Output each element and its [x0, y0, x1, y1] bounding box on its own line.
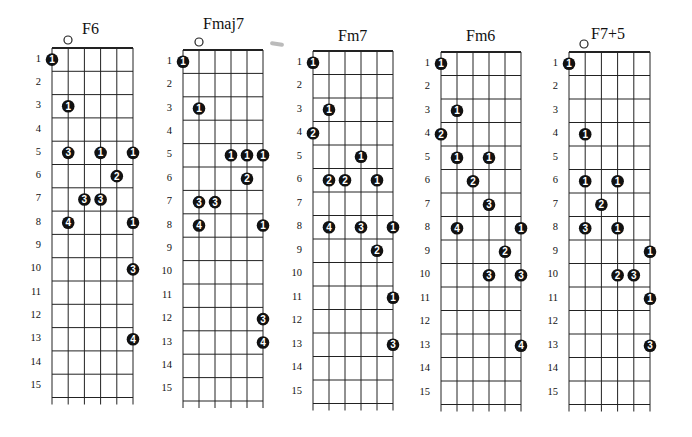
svg-text:1: 1 — [647, 246, 653, 257]
finger-dot: 3 — [628, 269, 641, 282]
fret-number: 2 — [538, 80, 558, 91]
fret-number: 1 — [538, 57, 558, 68]
svg-text:3: 3 — [582, 223, 588, 234]
svg-text:3: 3 — [631, 270, 637, 281]
svg-text:1: 1 — [582, 176, 588, 187]
fret-number: 3 — [538, 104, 558, 115]
finger-dot: 1 — [644, 292, 657, 305]
finger-dot: 1 — [611, 175, 624, 188]
fret-number: 10 — [538, 268, 558, 279]
svg-text:2: 2 — [599, 199, 605, 210]
svg-text:1: 1 — [615, 176, 621, 187]
fret-number: 9 — [538, 245, 558, 256]
fret-number: 15 — [538, 386, 558, 397]
fret-number: 7 — [538, 198, 558, 209]
finger-dot: 3 — [579, 222, 592, 235]
open-string-marker-icon — [580, 40, 588, 48]
fret-number: 6 — [538, 174, 558, 185]
svg-text:1: 1 — [647, 293, 653, 304]
fret-number: 11 — [538, 292, 558, 303]
fret-number: 12 — [538, 315, 558, 326]
fret-number: 14 — [538, 362, 558, 373]
finger-dot: 1 — [563, 57, 576, 70]
fret-number: 5 — [538, 151, 558, 162]
finger-dot: 1 — [611, 222, 624, 235]
svg-text:1: 1 — [566, 58, 572, 69]
finger-dot: 2 — [595, 198, 608, 211]
finger-dot: 1 — [579, 128, 592, 141]
finger-dot: 3 — [644, 339, 657, 352]
fretboard-grid: 111123112313 — [0, 0, 692, 437]
svg-text:1: 1 — [582, 129, 588, 140]
fret-number: 13 — [538, 339, 558, 350]
finger-dot: 2 — [611, 269, 624, 282]
finger-dot: 1 — [579, 175, 592, 188]
svg-text:3: 3 — [647, 340, 653, 351]
fret-number: 8 — [538, 221, 558, 232]
svg-text:2: 2 — [615, 270, 621, 281]
fret-number: 4 — [538, 127, 558, 138]
finger-dot: 1 — [644, 245, 657, 258]
svg-text:1: 1 — [615, 223, 621, 234]
